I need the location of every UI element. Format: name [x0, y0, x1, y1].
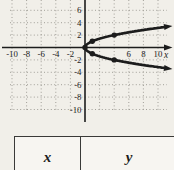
data-point [112, 57, 117, 62]
data-point [90, 39, 95, 44]
x-tick-label: -8 [23, 49, 31, 59]
x-tick-label: -4 [52, 49, 60, 59]
x-tick-label: 6 [127, 49, 132, 59]
y-tick-label: -10 [70, 105, 82, 115]
axes [2, 0, 173, 122]
x-tick-label: -6 [38, 49, 46, 59]
xy-table: x y [14, 136, 174, 170]
x-axis-label: x [163, 50, 169, 60]
data-point [90, 51, 95, 56]
table-header-x: x [15, 137, 81, 171]
x-tick-label: -10 [6, 49, 18, 59]
table-header-y: y [81, 137, 175, 171]
x-tick-label: 10 [154, 49, 163, 59]
graph-svg: -10-8-6-4-26810642-2-4-6-8-10x [0, 0, 174, 134]
y-tick-label: -8 [74, 92, 82, 102]
x-tick-label: 8 [141, 49, 146, 59]
table-header-row: x y [15, 137, 175, 171]
y-tick-label: -6 [74, 80, 82, 90]
data-point [82, 45, 87, 50]
y-tick-label: -4 [74, 67, 82, 77]
y-tick-label: 4 [77, 18, 82, 28]
y-tick-label: 6 [77, 5, 82, 15]
x-tick-label: -2 [67, 49, 74, 59]
arrowhead-icon [164, 65, 173, 72]
screenshot-root: -10-8-6-4-26810642-2-4-6-8-10x x y [0, 0, 174, 170]
coordinate-graph: -10-8-6-4-26810642-2-4-6-8-10x [0, 0, 174, 134]
y-tick-label: 2 [77, 30, 81, 40]
y-tick-label: -2 [74, 55, 81, 65]
data-point [112, 32, 117, 37]
arrowhead-icon [164, 23, 173, 30]
